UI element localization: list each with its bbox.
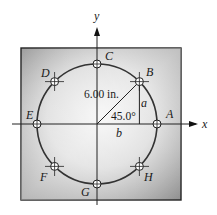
hole-label-C: C [105,49,114,63]
y-axis-label: y [93,9,100,23]
hole-label-A: A [165,107,174,121]
x-axis-label: x [201,117,208,131]
radius-label: 6.00 in. [84,88,119,100]
x-axis-arrow-icon [189,121,198,127]
leg-b-label: b [116,126,122,140]
hole-label-F: F [39,170,48,184]
hole-G [93,180,101,188]
leg-a-label: a [141,96,147,110]
hole-label-B: B [146,65,154,79]
hole-C [93,60,101,68]
hole-label-D: D [40,66,50,80]
y-axis-arrow-icon [94,27,100,36]
hole-E [33,120,41,128]
hole-label-H: H [143,170,154,184]
bolt-circle-diagram: x y 6.00 in. 45.0° a b [0,0,217,215]
hole-A [153,120,161,128]
angle-label: 45.0° [111,110,136,122]
hole-label-E: E [25,108,34,122]
hole-label-G: G [81,185,90,199]
